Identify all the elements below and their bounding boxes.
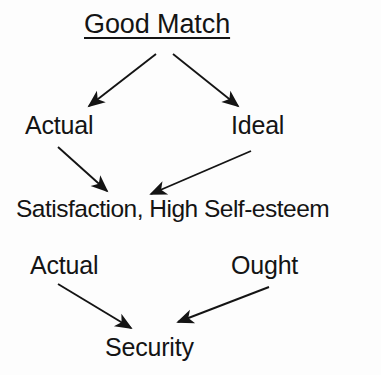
- arrow-ought-to-security: [178, 287, 269, 322]
- diagram-title: Good Match: [84, 11, 230, 38]
- diagram-canvas: Good Match Actual Ideal Satisfaction, Hi…: [0, 0, 381, 375]
- node-security: Security: [105, 335, 194, 360]
- arrow-goodmatch-to-actual: [89, 54, 156, 106]
- node-ideal: Ideal: [231, 113, 284, 138]
- node-actual-upper: Actual: [25, 113, 93, 138]
- arrow-ideal-to-satisfaction: [151, 151, 251, 194]
- node-satisfaction: Satisfaction, High Self-esteem: [16, 197, 329, 222]
- node-actual-lower: Actual: [30, 253, 98, 278]
- arrow-actual-to-security: [58, 284, 131, 328]
- node-ought: Ought: [231, 253, 298, 278]
- arrow-layer: [0, 0, 381, 375]
- arrow-goodmatch-to-ideal: [173, 54, 238, 106]
- arrow-actual-to-satisfaction: [58, 147, 107, 191]
